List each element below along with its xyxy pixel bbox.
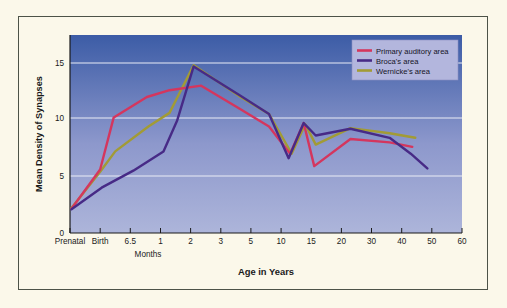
legend: Primary auditory area Broca's area Werni… [352, 40, 458, 80]
months-sublabel: Months [135, 250, 162, 259]
legend-label-1: Broca's area [376, 57, 419, 66]
x-tick-label: 60 [457, 237, 467, 246]
x-tick-label: 10 [277, 237, 287, 246]
figure-root: 15 10 5 0 Prenatal Birth 6.5 1 2 3 5 10 … [0, 0, 507, 308]
legend-label-0: Primary auditory area [376, 47, 449, 56]
x-tick-label: 6.5 [125, 237, 137, 246]
y-axis-title: Mean Density of Synapses [34, 76, 44, 192]
x-tick-label: 5 [249, 237, 254, 246]
x-tick-label: Prenatal [55, 237, 86, 246]
y-tick-label: 10 [55, 114, 65, 123]
synapse-density-line-chart: 15 10 5 0 Prenatal Birth 6.5 1 2 3 5 10 … [0, 0, 507, 308]
y-tick-label: 15 [55, 59, 65, 68]
x-tick-label: 30 [367, 237, 377, 246]
x-tick-label: 3 [219, 237, 224, 246]
x-tick-label: 50 [427, 237, 437, 246]
x-axis-title: Age in Years [238, 266, 294, 277]
x-tick-label: 2 [188, 237, 193, 246]
x-tick-label: 15 [307, 237, 317, 246]
y-tick-labels: 15 10 5 0 [55, 59, 65, 238]
x-tick-labels: Prenatal Birth 6.5 1 2 3 5 10 15 20 30 4… [55, 237, 467, 246]
y-tick-label: 5 [59, 172, 64, 181]
x-tick-label: 40 [397, 237, 407, 246]
legend-label-2: Wernicke's area [376, 67, 431, 76]
x-tick-label: 1 [158, 237, 163, 246]
x-tick-label: Birth [92, 237, 109, 246]
x-tick-label: 20 [337, 237, 347, 246]
